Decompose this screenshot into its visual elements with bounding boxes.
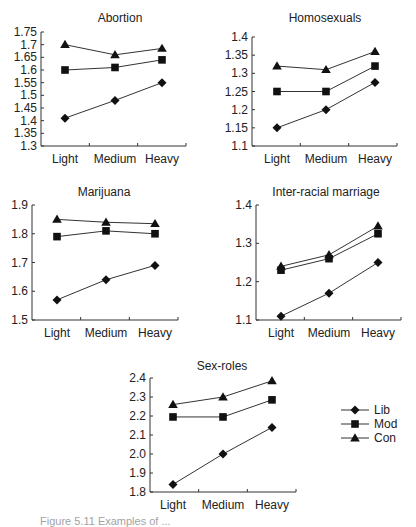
triangle-marker-icon — [373, 221, 383, 229]
x-tick-label: Medium — [305, 152, 348, 166]
y-tick-label: 1.7 — [20, 38, 37, 52]
y-tick-label: 1.2 — [235, 275, 252, 289]
y-tick-label: 1.9 — [11, 198, 28, 212]
diamond-marker-icon — [158, 78, 167, 87]
square-marker-icon — [102, 227, 110, 235]
x-tick-label: Heavy — [138, 326, 172, 340]
y-tick-label: 2.2 — [129, 409, 146, 423]
y-tick-label: 1.6 — [20, 63, 37, 77]
triangle-marker-icon — [157, 44, 167, 52]
diamond-marker-icon — [273, 123, 282, 132]
triangle-marker-icon — [272, 61, 282, 69]
square-marker-icon — [158, 56, 166, 64]
x-tick-label: Medium — [85, 326, 128, 340]
legend-label: Mod — [374, 417, 397, 431]
square-marker-icon — [371, 62, 379, 70]
x-tick-label: Heavy — [145, 152, 179, 166]
x-tick-label: Heavy — [358, 152, 392, 166]
diamond-marker-icon — [169, 480, 178, 489]
square-marker-icon — [273, 88, 281, 96]
chart-title: Sex-roles — [197, 359, 248, 373]
chart-abortion: Abortion1.31.351.41.451.51.551.61.651.71… — [14, 11, 186, 166]
square-marker-icon — [53, 233, 61, 241]
x-tick-label: Light — [44, 326, 71, 340]
y-tick-label: 1.45 — [14, 101, 38, 115]
chart-title: Marijuana — [78, 185, 131, 199]
square-marker-icon — [322, 88, 330, 96]
y-tick-label: 1.3 — [20, 139, 37, 153]
y-tick-label: 1.55 — [14, 76, 38, 90]
x-tick-label: Medium — [202, 498, 245, 512]
y-tick-label: 1.65 — [14, 50, 38, 64]
y-tick-label: 2.4 — [129, 371, 146, 385]
square-marker-icon — [169, 413, 177, 421]
triangle-marker-icon — [52, 215, 62, 223]
square-marker-icon — [374, 230, 382, 238]
y-tick-label: 2.0 — [129, 447, 146, 461]
square-marker-icon — [61, 66, 69, 74]
chart-marijuana: Marijuana1.51.61.71.81.9LightMediumHeavy — [11, 185, 178, 340]
y-tick-label: 1.2 — [231, 103, 248, 117]
y-tick-label: 1.1 — [235, 313, 252, 327]
y-tick-label: 1.25 — [225, 85, 249, 99]
legend-label: Con — [374, 431, 396, 445]
y-tick-label: 1.9 — [129, 466, 146, 480]
x-tick-label: Heavy — [361, 326, 395, 340]
y-tick-label: 2.1 — [129, 428, 146, 442]
x-tick-label: Light — [52, 152, 79, 166]
x-tick-label: Light — [264, 152, 291, 166]
triangle-marker-icon — [324, 250, 334, 258]
triangle-legend-icon — [350, 433, 360, 441]
triangle-marker-icon — [267, 376, 277, 384]
y-tick-label: 1.8 — [129, 485, 146, 499]
diamond-marker-icon — [371, 78, 380, 87]
y-tick-label: 2.3 — [129, 390, 146, 404]
x-tick-label: Heavy — [255, 498, 289, 512]
chart-sex-roles: Sex-roles1.81.92.02.12.22.32.4LightMediu… — [129, 359, 296, 512]
y-tick-label: 1.4 — [231, 30, 248, 44]
square-marker-icon — [111, 64, 119, 72]
y-tick-label: 1.1 — [231, 139, 248, 153]
x-tick-label: Medium — [94, 152, 137, 166]
diamond-marker-icon — [322, 105, 331, 114]
series-line-con — [173, 381, 272, 405]
square-marker-icon — [268, 396, 276, 404]
square-legend-icon — [351, 420, 359, 428]
y-tick-label: 1.4 — [20, 114, 37, 128]
x-tick-label: Medium — [308, 326, 351, 340]
diamond-marker-icon — [277, 312, 286, 321]
diamond-marker-icon — [111, 96, 120, 105]
diamond-legend-icon — [351, 406, 360, 415]
triangle-marker-icon — [101, 217, 111, 225]
y-tick-label: 1.35 — [225, 48, 249, 62]
figure-caption: Figure 5.11 Examples of ... — [40, 515, 171, 527]
square-marker-icon — [219, 413, 227, 421]
y-tick-label: 1.75 — [14, 25, 38, 39]
triangle-marker-icon — [370, 47, 380, 55]
x-tick-label: Light — [268, 326, 295, 340]
figure: Abortion1.31.351.41.451.51.551.61.651.71… — [0, 0, 416, 527]
triangle-marker-icon — [150, 219, 160, 227]
chart-title: Abortion — [98, 11, 143, 25]
y-tick-label: 1.4 — [235, 198, 252, 212]
chart-title: Inter-racial marriage — [272, 185, 380, 199]
square-marker-icon — [151, 230, 159, 238]
diamond-marker-icon — [102, 275, 111, 284]
diamond-marker-icon — [325, 289, 334, 298]
chart-title: Homosexuals — [289, 11, 362, 25]
diamond-marker-icon — [268, 423, 277, 432]
triangle-marker-icon — [60, 40, 70, 48]
legend: LibModCon — [341, 403, 397, 445]
chart-homosexuals: Homosexuals1.11.151.21.251.31.351.4Light… — [225, 11, 397, 166]
y-tick-label: 1.5 — [20, 88, 37, 102]
y-tick-label: 1.6 — [11, 284, 28, 298]
legend-label: Lib — [374, 403, 390, 417]
x-tick-label: Light — [160, 498, 187, 512]
diamond-marker-icon — [61, 114, 70, 123]
diamond-marker-icon — [219, 450, 228, 459]
chart-inter-racial-marriage: Inter-racial marriage1.11.21.31.4LightMe… — [235, 185, 401, 340]
y-tick-label: 1.15 — [225, 121, 249, 135]
diamond-marker-icon — [53, 295, 62, 304]
y-tick-label: 1.3 — [235, 236, 252, 250]
y-tick-label: 1.3 — [231, 66, 248, 80]
